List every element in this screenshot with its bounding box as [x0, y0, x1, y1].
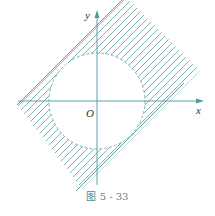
- x-axis-arrow-icon: [196, 99, 204, 104]
- hatch-line: [0, 0, 215, 4]
- hatch-line: [0, 0, 215, 39]
- origin-label: O: [86, 107, 94, 119]
- hatch-line: [0, 0, 215, 165]
- hatched-region: [0, 0, 215, 216]
- hatch-line: [0, 7, 215, 216]
- hatch-line: [0, 0, 215, 67]
- hatch-line: [0, 0, 215, 123]
- hatch-line: [0, 0, 215, 11]
- hatch-line: [0, 21, 215, 216]
- hatch-line: [0, 0, 215, 216]
- hatch-line: [0, 147, 215, 216]
- hatch-line: [0, 210, 215, 216]
- x-axis-label: x: [195, 104, 201, 116]
- hatch-line: [0, 0, 215, 81]
- hatch-line: [0, 0, 215, 193]
- hatch-line: [0, 0, 215, 137]
- hatch-line: [0, 0, 215, 18]
- hatch-line: [0, 0, 215, 25]
- hatch-line: [0, 140, 215, 216]
- hatch-line: [0, 133, 215, 216]
- figure-caption: 图 5 - 33: [0, 188, 215, 203]
- hatch-line: [0, 203, 215, 216]
- y-axis-label: y: [84, 9, 90, 21]
- figure-canvas: x y O: [0, 0, 215, 216]
- y-axis-arrow-icon: [95, 10, 100, 18]
